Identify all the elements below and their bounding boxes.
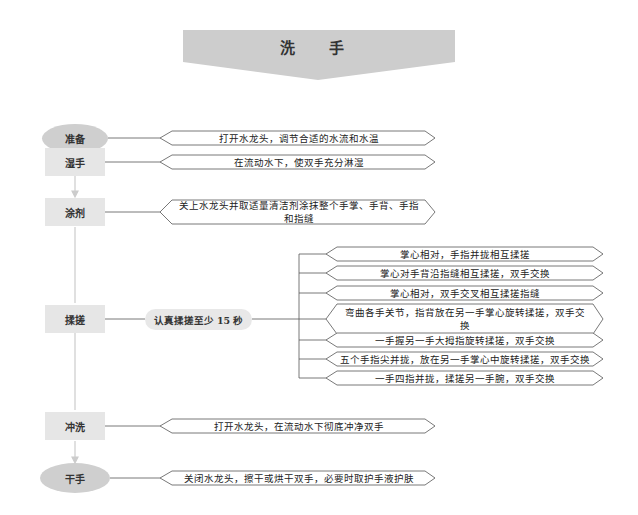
- page-title: 洗 手: [183, 36, 455, 57]
- rub-duration-note: 认真揉搓至少 15 秒: [145, 309, 252, 330]
- step-label: 揉搓: [65, 312, 85, 327]
- substep: 五个手指尖并拢，放在另一手掌心中旋转揉搓，双手交换: [334, 352, 596, 366]
- step-wet-hands: 湿手: [45, 148, 105, 176]
- step-label: 冲洗: [65, 419, 85, 434]
- step-label: 湿手: [65, 155, 85, 170]
- step-apply-soap: 涂剂: [45, 198, 105, 226]
- step-rub: 揉搓: [45, 305, 105, 333]
- substep: 掌心对手背沿指缝相互揉搓，双手交换: [338, 266, 592, 280]
- substep: 掌心相对，手指并拢相互揉搓: [338, 247, 592, 261]
- step-rinse: 冲洗: [45, 412, 105, 440]
- step-description: 打开水龙头，在流动水下彻底冲净双手: [175, 419, 423, 433]
- substep: 一手握另一手大拇指旋转揉搓，双手交换: [338, 333, 592, 347]
- step-label: 涂剂: [65, 205, 85, 220]
- step-dry: 干手: [40, 463, 110, 493]
- step-description: 在流动水下，使双手充分淋湿: [175, 155, 423, 169]
- step-description: 关上水龙头并取适量清洁剂涂抹整个手掌、手背、手指和指缝: [178, 200, 420, 224]
- step-label: 干手: [65, 471, 85, 486]
- substep: 弯曲各手关节，指背放在另一手掌心旋转揉搓，双手交换: [345, 304, 585, 334]
- step-label: 准备: [65, 131, 85, 146]
- substep: 一手四指并拢，揉搓另一手腕，双手交换: [338, 371, 592, 385]
- step-description: 关闭水龙头，擦干或烘干双手，必要时取护手液护肤: [175, 471, 423, 485]
- substep: 掌心相对，双手交叉相互揉搓指缝: [338, 286, 592, 300]
- step-description: 打开水龙头，调节合适的水流和水温: [175, 131, 423, 145]
